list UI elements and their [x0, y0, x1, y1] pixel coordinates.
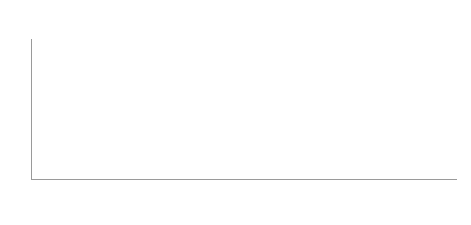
chart-container [0, 0, 471, 225]
plot-area [31, 39, 457, 180]
stacked-area-series [32, 39, 457, 179]
x-axis-ticks [31, 179, 456, 225]
